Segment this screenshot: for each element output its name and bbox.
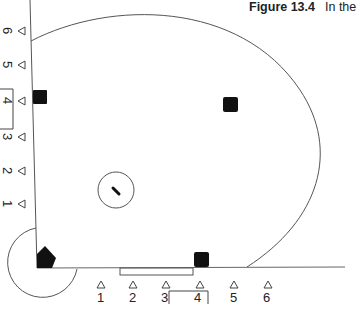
bottom-marker-1 (97, 281, 105, 288)
bottom-label-6: 6 (263, 290, 270, 305)
bottom-marker-2 (129, 281, 137, 288)
side-label-5: 5 (0, 61, 15, 68)
home-plate (37, 246, 56, 268)
outfield-arc (31, 15, 320, 267)
bottom-bracket-4 (169, 291, 208, 304)
side-marker-2 (18, 167, 25, 175)
bottom-label-2: 2 (129, 290, 136, 305)
first-base (194, 252, 209, 267)
bottom-label-4: 4 (194, 290, 201, 305)
side-marker-3 (18, 133, 25, 141)
side-marker-6 (18, 27, 25, 35)
third-base (33, 90, 47, 104)
side-marker-1 (18, 200, 25, 208)
bottom-label-5: 5 (230, 290, 237, 305)
runner-lane (120, 268, 193, 275)
bottom-marker-6 (264, 281, 272, 288)
bottom-label-1: 1 (97, 290, 104, 305)
side-label-3: 3 (0, 133, 15, 140)
bottom-position-markers (97, 281, 272, 288)
second-base (223, 97, 238, 112)
pitcher-rubber (113, 188, 119, 194)
bottom-marker-5 (230, 281, 238, 288)
side-label-4: 4 (0, 97, 15, 104)
side-label-1: 1 (0, 200, 15, 207)
side-marker-5 (18, 61, 25, 69)
side-label-2: 2 (0, 167, 15, 174)
baseball-field-diagram: 1 2 3 4 5 6 6 5 4 3 2 1 (0, 0, 360, 321)
bottom-label-3: 3 (161, 290, 168, 305)
side-label-6: 6 (0, 27, 15, 34)
bottom-marker-3 (162, 281, 170, 288)
bottom-marker-4 (196, 281, 204, 288)
side-bracket-4 (0, 89, 13, 129)
side-marker-4 (18, 97, 25, 105)
side-position-markers (18, 27, 25, 208)
